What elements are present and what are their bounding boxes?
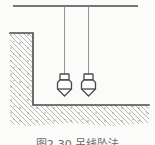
figure-caption: 图2-30 吊线坠法 [0, 138, 155, 145]
plumb-bob-left [58, 74, 72, 96]
plumb-bob-right [82, 74, 96, 96]
figure-diagram: 图2-30 吊线坠法 [0, 0, 155, 145]
plumb-bob-diagram [0, 0, 155, 145]
ground-section-specks [10, 33, 149, 126]
plumb-bob-left-cap [60, 74, 69, 80]
plumb-bob-right-body [82, 80, 96, 96]
plumb-bob-left-body [58, 80, 72, 96]
plumb-bob-right-cap [84, 74, 93, 80]
